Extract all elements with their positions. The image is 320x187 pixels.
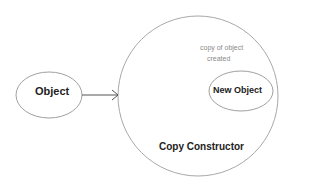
new-object-node-label: New Object [213,85,262,95]
annotation-line2: created [207,55,230,62]
annotation-line1: copy of object [200,44,243,51]
object-node-label: Object [35,85,69,97]
arrow-icon [82,90,118,100]
copy-constructor-shape [118,16,278,176]
copy-constructor-label: Copy Constructor [159,141,244,152]
